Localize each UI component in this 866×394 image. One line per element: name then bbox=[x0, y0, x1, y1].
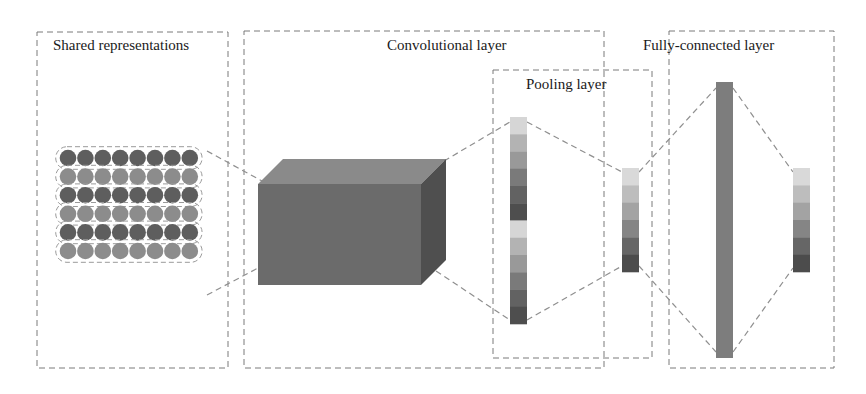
bar-segment bbox=[510, 272, 527, 290]
neuron-node bbox=[182, 224, 199, 241]
neuron-node bbox=[95, 206, 112, 223]
bar-segment bbox=[793, 203, 810, 221]
connector-convbar-to-poolbar-top bbox=[527, 122, 622, 172]
bar-segment bbox=[622, 203, 639, 221]
architecture-diagram bbox=[0, 0, 866, 394]
neuron-node bbox=[182, 243, 199, 260]
fc-output-bar bbox=[793, 168, 810, 272]
neuron-node bbox=[147, 150, 164, 167]
bar-segment bbox=[510, 307, 527, 325]
bar-segment bbox=[510, 186, 527, 204]
neuron-node bbox=[95, 187, 112, 204]
bar-segment bbox=[793, 220, 810, 238]
bar-segment bbox=[510, 169, 527, 187]
shared-representation-rows bbox=[56, 147, 202, 263]
neuron-node bbox=[164, 168, 181, 185]
neuron-node bbox=[129, 168, 146, 185]
connector-cube-to-convbar-bottom bbox=[436, 271, 510, 320]
bar-segment bbox=[510, 134, 527, 152]
neuron-node bbox=[182, 168, 199, 185]
neuron-node bbox=[77, 206, 94, 223]
bar-segment bbox=[510, 238, 527, 256]
neuron-node bbox=[112, 206, 129, 223]
neuron-node bbox=[60, 150, 77, 167]
neuron-node bbox=[77, 187, 94, 204]
neuron-node bbox=[147, 206, 164, 223]
neuron-node bbox=[182, 206, 199, 223]
neuron-node bbox=[112, 187, 129, 204]
neuron-node bbox=[129, 150, 146, 167]
bar-segment bbox=[622, 168, 639, 186]
neuron-node bbox=[95, 168, 112, 185]
neuron-node bbox=[164, 206, 181, 223]
bar-segment bbox=[510, 117, 527, 135]
bar-segment bbox=[622, 185, 639, 203]
neuron-node bbox=[129, 224, 146, 241]
neuron-node bbox=[147, 224, 164, 241]
neuron-node bbox=[77, 168, 94, 185]
conv-feature-cube bbox=[258, 159, 446, 285]
neuron-node bbox=[60, 243, 77, 260]
neuron-node bbox=[60, 206, 77, 223]
connector-fcbar-to-outputbar-top bbox=[733, 88, 793, 172]
neuron-node bbox=[95, 150, 112, 167]
neuron-node bbox=[182, 150, 199, 167]
connector-poolbar-to-fcbar-bottom bbox=[639, 266, 716, 352]
neuron-node bbox=[112, 168, 129, 185]
cube-top-face bbox=[258, 159, 446, 184]
neuron-node bbox=[60, 168, 77, 185]
conv-output-bar bbox=[510, 117, 527, 324]
connector-poolbar-to-fcbar-top bbox=[639, 88, 716, 172]
bar-segment bbox=[622, 237, 639, 255]
neuron-node bbox=[147, 187, 164, 204]
neuron-node bbox=[77, 224, 94, 241]
neuron-node bbox=[95, 243, 112, 260]
bar-segment bbox=[793, 237, 810, 255]
bar-segment bbox=[510, 152, 527, 170]
neuron-node bbox=[77, 150, 94, 167]
neuron-node bbox=[164, 224, 181, 241]
bar-segment bbox=[510, 221, 527, 239]
neuron-node bbox=[129, 206, 146, 223]
bar-segment bbox=[510, 255, 527, 273]
bar-segment bbox=[793, 168, 810, 186]
bar-segment bbox=[622, 220, 639, 238]
neuron-node bbox=[147, 243, 164, 260]
neuron-node bbox=[129, 243, 146, 260]
neuron-node bbox=[164, 243, 181, 260]
panel-pooling-title: Pooling layer bbox=[526, 76, 606, 93]
bar-segment bbox=[793, 255, 810, 273]
neuron-node bbox=[112, 150, 129, 167]
panel-conv-title: Convolutional layer bbox=[387, 37, 507, 54]
connector-convbar-to-poolbar-bottom bbox=[527, 266, 622, 320]
neuron-node bbox=[112, 243, 129, 260]
cube-front-face bbox=[258, 184, 421, 285]
connector-fcbar-to-outputbar-bottom bbox=[733, 268, 793, 352]
bar-segment bbox=[793, 185, 810, 203]
neuron-node bbox=[164, 150, 181, 167]
neuron-node bbox=[164, 187, 181, 204]
connector-shared-to-cube-top bbox=[207, 151, 262, 181]
connector-cube-to-convbar-top bbox=[444, 122, 510, 161]
bar-segment bbox=[510, 290, 527, 308]
neuron-node bbox=[147, 168, 164, 185]
neuron-node bbox=[182, 187, 199, 204]
panel-fc-title: Fully-connected layer bbox=[643, 37, 774, 54]
neuron-node bbox=[77, 243, 94, 260]
fc-bar bbox=[716, 82, 733, 358]
neuron-node bbox=[112, 224, 129, 241]
neuron-node bbox=[95, 224, 112, 241]
connector-shared-to-cube-bottom bbox=[207, 268, 258, 295]
neuron-node bbox=[129, 187, 146, 204]
neuron-node bbox=[60, 224, 77, 241]
pooling-output-bar bbox=[622, 168, 639, 272]
bar-segment bbox=[622, 255, 639, 273]
neuron-node bbox=[60, 187, 77, 204]
bar-segment bbox=[510, 203, 527, 221]
panel-shared-title: Shared representations bbox=[53, 37, 189, 54]
